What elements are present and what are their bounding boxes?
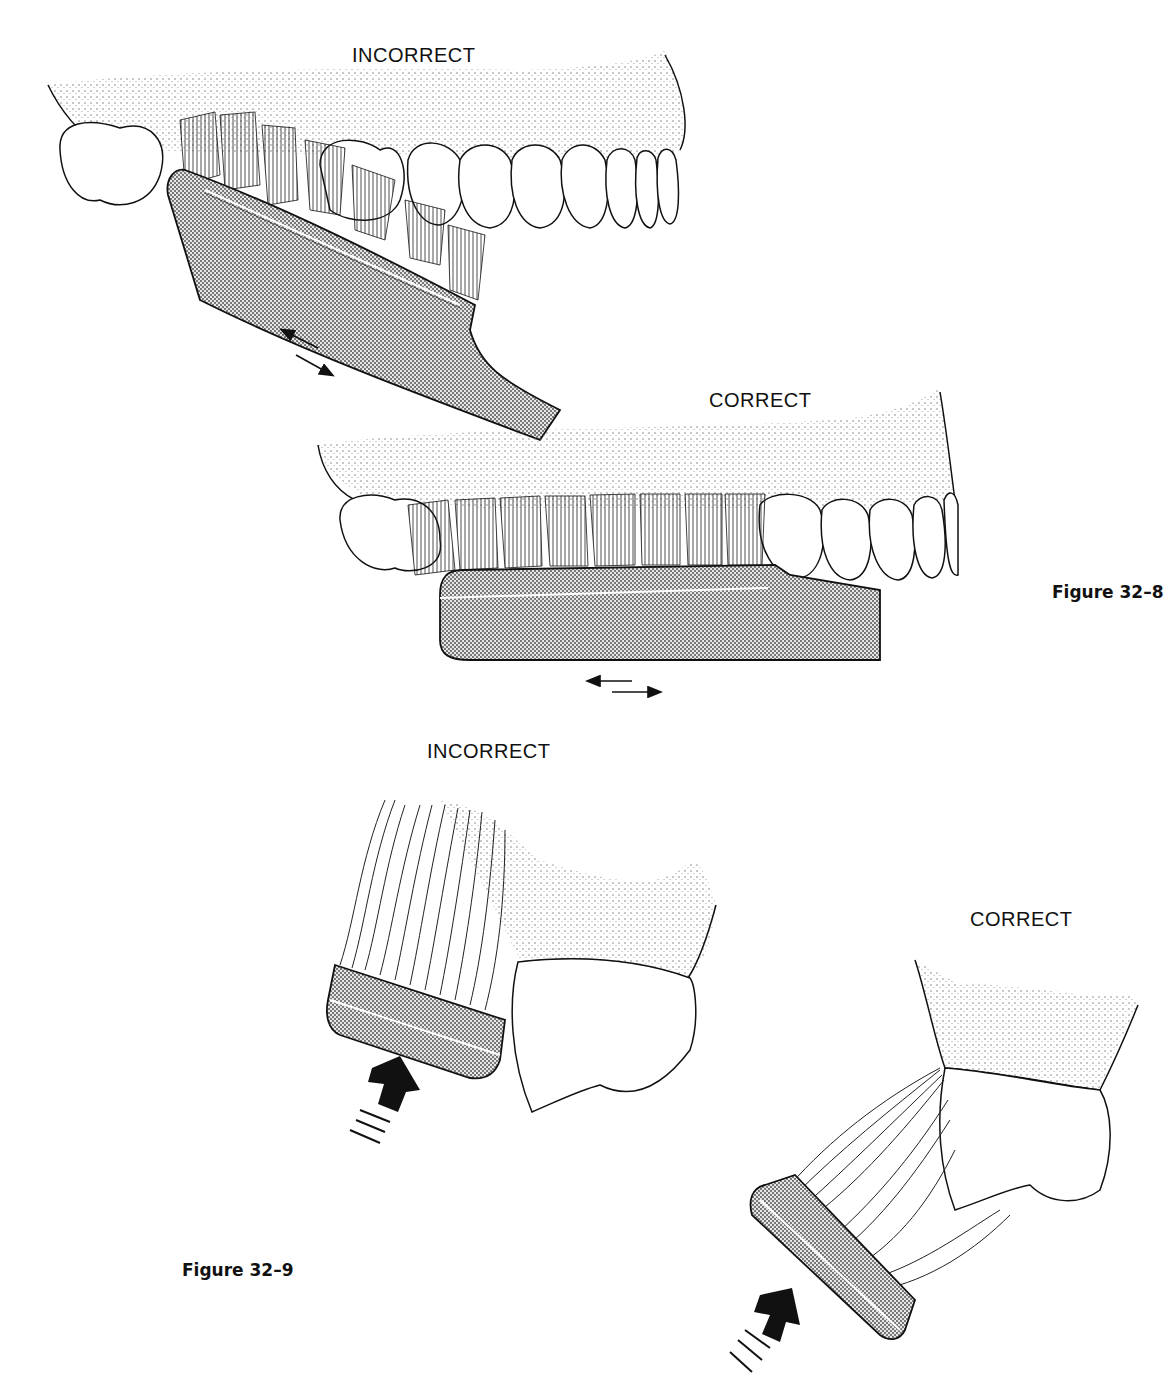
toothbrush-handle [440, 565, 880, 660]
fig32-8-correct-diagram [318, 388, 958, 692]
figure-32-9-caption: Figure 32–9 [182, 1260, 294, 1280]
fig32-9-correct-diagram [730, 960, 1138, 1372]
gingiva [318, 388, 955, 510]
tooth-crown [512, 959, 696, 1112]
illustration-canvas [0, 0, 1172, 1379]
figure-32-8-caption: Figure 32–8 [1052, 582, 1164, 602]
fig32-9-correct-label: CORRECT [970, 908, 1072, 931]
tooth-crown [940, 1068, 1110, 1210]
fig32-8-incorrect-diagram [48, 50, 685, 440]
fig32-9-incorrect-diagram [327, 800, 716, 1143]
fig32-8-incorrect-label: INCORRECT [352, 44, 475, 67]
bidirectional-arrow-icon [588, 681, 660, 692]
pressure-arrow-icon [350, 1056, 420, 1143]
fig32-9-incorrect-label: INCORRECT [427, 740, 550, 763]
toothbrush-head [327, 965, 505, 1078]
gingiva [440, 800, 716, 978]
fig32-8-correct-label: CORRECT [709, 389, 811, 412]
pressure-arrow-icon [730, 1288, 800, 1372]
